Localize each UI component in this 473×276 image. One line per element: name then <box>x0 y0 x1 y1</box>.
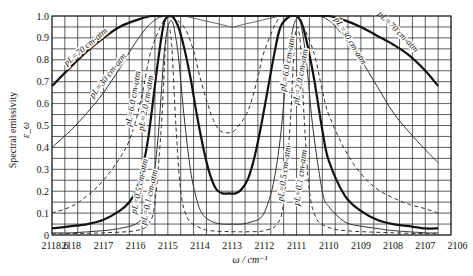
x-tick-label: 2118 <box>61 240 81 251</box>
curve-label: pL=30 cm-atm <box>86 51 128 101</box>
x-tick-label: 2117 <box>94 240 114 251</box>
y-axis-label: Spectral emissivity <box>7 92 18 168</box>
x-tick-label: 2115 <box>158 240 178 251</box>
y-tick-label: 0.1 <box>37 208 50 219</box>
curve-labels: pL=70 cm-atmpL=30 cm-atmpL=6.0 cm-atmpL=… <box>61 8 421 227</box>
curve-label: pL=0.5 cm-atm <box>275 144 293 202</box>
x-tick-label: 2111 <box>287 240 306 251</box>
curve-label: pL=70 cm-atm <box>61 25 110 68</box>
y-tick-label: 0.9 <box>37 32 50 43</box>
x-axis-label: ω / cm⁻¹ <box>233 254 268 265</box>
x-tick-label: 2106 <box>447 240 467 251</box>
y-tick-label: 1.0 <box>37 11 50 22</box>
x-tick-label: 2112 <box>255 240 275 251</box>
chart-svg: pL=70 cm-atmpL=30 cm-atmpL=6.0 cm-atmpL=… <box>0 0 473 276</box>
curve-label: pL=0.1 cm-atm <box>291 149 309 207</box>
y-tick-label: 0.5 <box>37 120 50 131</box>
y-tick-label: 0.2 <box>37 186 50 197</box>
y-tick-label: 0.3 <box>37 164 50 175</box>
x-tick-label: 2116 <box>126 240 146 251</box>
x-tick-label: 2113 <box>222 240 242 251</box>
y-axis-symbol: ε_ω <box>20 122 31 138</box>
y-tick-label: 0.7 <box>37 76 50 87</box>
y-tick-label: 0.8 <box>37 54 50 65</box>
y-tick-label: 0 <box>44 230 49 241</box>
grid <box>52 16 451 235</box>
x-tick-label: 2108 <box>383 240 403 251</box>
x-tick-label: 2114 <box>190 240 210 251</box>
y-tick-label: 0.4 <box>37 142 50 153</box>
x-tick-label: 2107 <box>415 240 435 251</box>
x-axis-ticks: 2118.62118211721162115211421132112211121… <box>41 240 467 251</box>
emissivity-chart: pL=70 cm-atmpL=30 cm-atmpL=6.0 cm-atmpL=… <box>0 0 473 276</box>
y-axis-ticks: 00.10.20.30.40.50.60.70.80.91.0 <box>37 11 50 241</box>
x-tick-label: 2109 <box>351 240 371 251</box>
y-tick-label: 0.6 <box>37 98 50 109</box>
x-tick-label: 2110 <box>319 240 339 251</box>
